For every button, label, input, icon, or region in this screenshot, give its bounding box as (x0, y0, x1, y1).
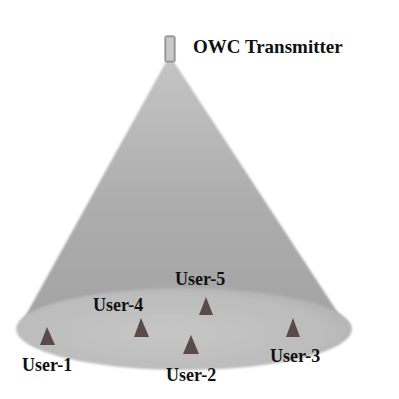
user-2-label: User-2 (166, 366, 216, 384)
diagram-canvas (0, 0, 399, 399)
owc-diagram: OWC Transmitter User-1 User-2 User-3 Use… (0, 0, 399, 399)
user-1-label: User-1 (22, 356, 72, 374)
transmitter-label: OWC Transmitter (193, 37, 343, 56)
user-5-label: User-5 (175, 270, 225, 288)
user-4-label: User-4 (93, 296, 143, 314)
transmitter-box-icon (165, 36, 175, 62)
user-3-label: User-3 (270, 347, 320, 365)
